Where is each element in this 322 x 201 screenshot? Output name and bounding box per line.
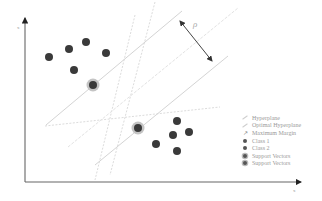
x-axis-label: x [293,188,296,193]
class-1-points [45,38,110,74]
support-vector [89,81,97,89]
legend-label: Class 2 [252,145,270,151]
class-2-point [185,128,193,136]
legend-item-maximum-margin: ↗ Maximum Margin [241,129,321,137]
line-icon [241,114,249,121]
legend-label: Support Vectors [252,160,290,166]
svm-diagram: ρ x x [0,0,322,201]
class-1-point [45,53,53,61]
class-1-point [102,49,110,57]
legend: Hyperplane Optimal Hyperplane ↗ Maximum … [241,114,321,167]
legend-label: Hyperplane [252,115,280,121]
y-axis-label: x [17,25,20,30]
support-vector-icon [241,152,249,159]
legend-item-hyperplane: Hyperplane [241,114,321,122]
lower-margin-line [95,56,228,165]
class-1-point [82,38,90,46]
legend-item-class-2: Class 2 [241,144,321,152]
margin-lines [46,11,228,165]
legend-item-class-1: Class 1 [241,137,321,145]
optimal-hyperplane-line [68,8,238,147]
class-1-point [70,66,78,74]
margin-label: ρ [192,19,198,29]
class-2-point [173,147,181,155]
legend-label: Optimal Hyperplane [252,122,301,128]
class-1-point [65,45,73,53]
support-vectors [87,79,145,135]
support-vector-icon [241,160,249,167]
dot-icon [241,137,249,144]
legend-item-support-vectors-2: Support Vectors [241,160,321,168]
legend-label: Support Vectors [252,153,290,159]
legend-item-support-vectors: Support Vectors [241,152,321,160]
support-vector [134,124,142,132]
dot-icon [241,145,249,152]
class-2-point [173,117,181,125]
class-2-point [169,131,177,139]
class-2-points [152,117,193,155]
legend-label: Class 1 [252,138,270,144]
legend-item-optimal-hyperplane: Optimal Hyperplane [241,122,321,130]
legend-label: Maximum Margin [252,130,296,136]
class-2-point [152,140,160,148]
upper-margin-line [46,11,182,125]
arrow-icon: ↗ [241,129,249,136]
line-icon [241,122,249,129]
